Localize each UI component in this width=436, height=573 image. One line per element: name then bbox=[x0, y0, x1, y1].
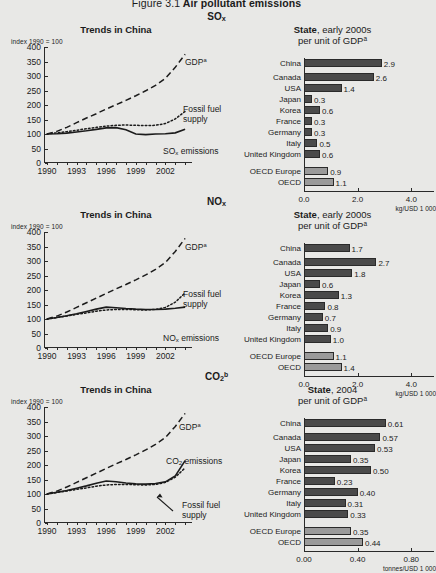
bar-track-nox-9: 1.1 bbox=[304, 351, 433, 362]
bar-row-so2-3: Japan0.3 bbox=[232, 94, 433, 105]
label-gdp-nox: GDPa bbox=[185, 241, 207, 252]
bar-row-co2-7: Italy0.31 bbox=[232, 498, 433, 509]
bar-track-so2-10: 1.1 bbox=[304, 177, 433, 188]
bar-label-so2-3: Japan bbox=[232, 94, 304, 105]
bar-label-nox-3: Japan bbox=[232, 279, 304, 290]
bar-label-nox-9: OECD Europe bbox=[232, 351, 304, 362]
bar-so2-9 bbox=[304, 167, 328, 175]
bar-row-so2-4: Korea0.6 bbox=[232, 105, 433, 116]
bar-track-co2-6: 0.40 bbox=[304, 487, 433, 498]
x-tick-co2-1996: 1996 bbox=[97, 526, 116, 536]
bar-so2-4 bbox=[304, 106, 320, 114]
y-tick-co2-50: 50 bbox=[15, 504, 45, 514]
bar-co2-3 bbox=[304, 455, 351, 463]
bar-row-so2-0: China2.9 bbox=[232, 58, 433, 69]
y-tick-nox-350: 350 bbox=[15, 242, 45, 252]
bar-label-so2-10: OECD bbox=[232, 177, 304, 188]
y-tick-co2-400: 400 bbox=[15, 402, 45, 412]
bar-row-so2-8: United Kingdom0.6 bbox=[232, 149, 433, 160]
bar-track-co2-0: 0.61 bbox=[304, 418, 433, 429]
bar-value-so2-6: 0.3 bbox=[312, 128, 325, 137]
state-subtitle-so2: per unit of GDPa bbox=[232, 35, 433, 46]
bar-so2-1 bbox=[304, 73, 374, 81]
bar-track-so2-0: 2.9 bbox=[304, 58, 433, 69]
trends-plot-nox: 4003503002502001501005001990199319961999… bbox=[44, 232, 192, 348]
bar-label-nox-5: France bbox=[232, 301, 304, 312]
bar-track-nox-0: 1.7 bbox=[304, 243, 433, 254]
y-tick-nox-100: 100 bbox=[15, 314, 45, 324]
trends-panel-co2: Trends in Chinaindex 1990 = 100400350300… bbox=[0, 384, 232, 546]
trends-title-nox: Trends in China bbox=[0, 209, 232, 220]
bar-track-so2-6: 0.3 bbox=[304, 127, 433, 138]
bar-co2-8 bbox=[304, 510, 348, 518]
bar-nox-10 bbox=[304, 363, 342, 371]
x-tick-co2-1993: 1993 bbox=[67, 526, 86, 536]
x-tick-so2-1996: 1996 bbox=[97, 166, 116, 176]
bar-value-co2-6: 0.40 bbox=[358, 488, 376, 497]
bar-value-nox-5: 0.8 bbox=[325, 302, 338, 311]
bar-row-co2-10: OECD0.44 bbox=[232, 537, 433, 548]
bar-row-nox-1: Canada2.7 bbox=[232, 257, 433, 268]
bar-label-so2-4: Korea bbox=[232, 105, 304, 116]
bar-label-co2-6: Germany bbox=[232, 487, 304, 498]
bar-label-nox-4: Korea bbox=[232, 290, 304, 301]
state-panel-so2: State, early 2000sper unit of GDPaChina2… bbox=[232, 24, 433, 190]
bar-axis-line-co2 bbox=[304, 551, 434, 552]
bar-track-co2-4: 0.50 bbox=[304, 465, 433, 476]
y-tick-so2-300: 300 bbox=[15, 71, 45, 81]
bar-label-nox-8: United Kingdom bbox=[232, 334, 304, 345]
bar-co2-0 bbox=[304, 419, 386, 427]
x-tick-nox-1996: 1996 bbox=[97, 351, 116, 361]
bar-value-nox-6: 0.7 bbox=[323, 313, 336, 322]
y-tick-so2-100: 100 bbox=[15, 129, 45, 139]
bar-track-co2-7: 0.31 bbox=[304, 498, 433, 509]
state-subtitle-nox: per unit of GDPa bbox=[232, 220, 433, 231]
bar-so2-10 bbox=[304, 178, 334, 186]
bar-row-nox-4: Korea1.3 bbox=[232, 290, 433, 301]
state-panel-co2: State, 2004per unit of GDPaChina0.61Cana… bbox=[232, 384, 433, 550]
bar-row-so2-6: Germany0.3 bbox=[232, 127, 433, 138]
bar-axis-unit-co2: tonnes/USD 1 000 bbox=[304, 565, 436, 572]
bar-value-co2-3: 0.35 bbox=[351, 455, 369, 464]
bar-x-tickmark-so2-2 bbox=[411, 188, 412, 191]
bar-label-so2-8: United Kingdom bbox=[232, 149, 304, 160]
bar-label-co2-4: Korea bbox=[232, 465, 304, 476]
bar-row-co2-3: Japan0.35 bbox=[232, 454, 433, 465]
label-gdp-co2: GDPa bbox=[179, 421, 201, 432]
bar-track-co2-9: 0.35 bbox=[304, 526, 433, 537]
bar-nox-8 bbox=[304, 335, 331, 343]
bar-track-co2-3: 0.35 bbox=[304, 454, 433, 465]
bar-row-co2-0: China0.61 bbox=[232, 418, 433, 429]
bar-track-so2-2: 1.4 bbox=[304, 83, 433, 94]
x-tick-nox-2002: 2002 bbox=[156, 351, 175, 361]
bar-track-nox-2: 1.8 bbox=[304, 268, 433, 279]
bar-nox-0 bbox=[304, 244, 350, 252]
y-tick-co2-100: 100 bbox=[15, 489, 45, 499]
bar-co2-2 bbox=[304, 444, 375, 452]
bar-track-co2-10: 0.44 bbox=[304, 537, 433, 548]
bar-label-so2-7: Italy bbox=[232, 138, 304, 149]
bar-row-nox-5: France0.8 bbox=[232, 301, 433, 312]
bar-label-nox-0: China bbox=[232, 243, 304, 254]
bar-label-co2-2: USA bbox=[232, 443, 304, 454]
bar-label-so2-6: Germany bbox=[232, 127, 304, 138]
bar-value-nox-8: 1.0 bbox=[331, 335, 344, 344]
y-tick-so2-150: 150 bbox=[15, 115, 45, 125]
y-tick-so2-50: 50 bbox=[15, 144, 45, 154]
y-tick-nox-400: 400 bbox=[15, 227, 45, 237]
bar-x-tickmark-so2-1 bbox=[358, 188, 359, 191]
bar-track-nox-8: 1.0 bbox=[304, 334, 433, 345]
bar-label-co2-1: Canada bbox=[232, 432, 304, 443]
bar-row-nox-6: Germany0.7 bbox=[232, 312, 433, 323]
bar-nox-3 bbox=[304, 280, 320, 288]
x-tick-co2-2002: 2002 bbox=[156, 526, 175, 536]
fossil-fuel-callout-arrow-co2 bbox=[157, 497, 173, 511]
bar-row-nox-7: Italy0.9 bbox=[232, 323, 433, 334]
state-title-co2: State, 2004 bbox=[232, 384, 433, 395]
bar-so2-2 bbox=[304, 84, 342, 92]
bar-so2-7 bbox=[304, 139, 317, 147]
trends-title-co2: Trends in China bbox=[0, 384, 232, 395]
bar-row-co2-6: Germany0.40 bbox=[232, 487, 433, 498]
y-tick-co2-250: 250 bbox=[15, 446, 45, 456]
